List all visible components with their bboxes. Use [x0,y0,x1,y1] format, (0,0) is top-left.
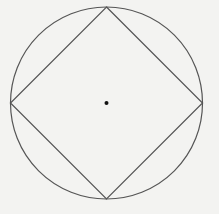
center-point [105,101,109,105]
circle-inscribed-square-diagram [0,0,219,214]
diagram-canvas [0,0,219,214]
